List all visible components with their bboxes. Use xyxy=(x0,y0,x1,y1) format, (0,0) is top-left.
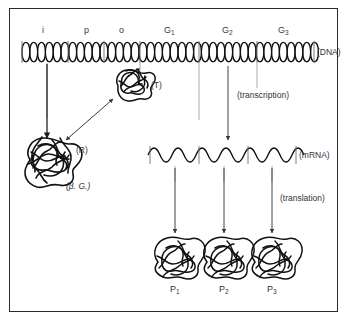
p3-sub: 3 xyxy=(273,288,277,295)
dna-segment-label-g1: G1 xyxy=(164,26,175,35)
dna-strand-label: (DNA) xyxy=(317,48,341,57)
molecule-label-t: (T) xyxy=(151,81,162,90)
protein-label-p3: P3 xyxy=(267,285,277,294)
protein-label-p1: P1 xyxy=(170,285,180,294)
dna-segment-label-o: o xyxy=(119,26,124,35)
molecule-label-r: (R) xyxy=(76,146,88,155)
protein-p2-tangle xyxy=(204,237,254,279)
gene-expression-diagram: i p o G1 G2 G3 (DNA) (mRNA) (T) (R) (β. … xyxy=(0,0,348,322)
molecule-T-tangle xyxy=(117,69,155,101)
g1-sub: 1 xyxy=(171,29,175,36)
dna-segment-label-i: i xyxy=(42,26,44,35)
g1-base: G xyxy=(164,25,171,35)
g3-base: G xyxy=(278,25,285,35)
arrows-translation xyxy=(175,168,272,233)
dna-strand xyxy=(22,42,318,62)
molecule-R-tangle xyxy=(25,137,82,187)
mrna-strand-label: (mRNA) xyxy=(299,151,330,160)
dna-guide-lines xyxy=(47,63,257,120)
process-label-translation: (translation) xyxy=(280,194,325,203)
mrna-strand xyxy=(148,148,304,162)
dna-segment-label-g3: G3 xyxy=(278,26,289,35)
g2-sub: 2 xyxy=(229,29,233,36)
dna-segment-label-p: p xyxy=(84,26,89,35)
g2-base: G xyxy=(222,25,229,35)
p2-sub: 2 xyxy=(225,288,229,295)
arrow-repressor-inducer-equilibrium xyxy=(66,99,113,140)
dna-segment-label-g2: G2 xyxy=(222,26,233,35)
protein-p1-tangle xyxy=(155,237,205,279)
protein-label-p2: P2 xyxy=(219,285,229,294)
g3-sub: 3 xyxy=(285,29,289,36)
protein-p3-tangle xyxy=(252,237,302,279)
p1-sub: 1 xyxy=(176,288,180,295)
diagram-vector-layer xyxy=(0,0,348,322)
process-label-transcription: (transcription) xyxy=(237,91,289,100)
molecule-label-beta-galactosidase: (β. G.) xyxy=(66,182,90,191)
